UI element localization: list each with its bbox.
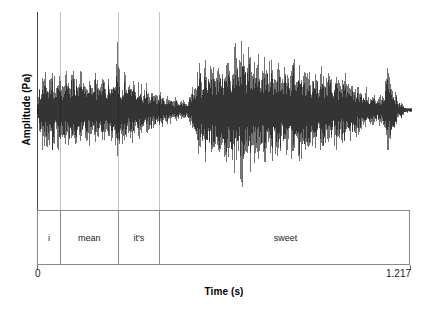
waveform-figure: Amplitude (Pa) i mean it's sweet 0 1.217… [0,0,448,309]
x-axis-tick-label-start: 0 [35,268,41,279]
x-axis-tick-label-end: 1.217 [386,268,411,279]
waveform-plot [37,12,412,210]
tier-segment-its[interactable]: it's [119,211,161,264]
tier-segment-i[interactable]: i [38,211,61,264]
annotation-tier: i mean it's sweet [37,210,410,265]
y-axis-label: Amplitude (Pa) [21,40,32,180]
x-axis-label: Time (s) [0,286,448,297]
tier-segment-mean[interactable]: mean [61,211,119,264]
waveform-svg [37,12,412,210]
tier-segment-sweet[interactable]: sweet [160,211,411,264]
waveform-trace [37,41,412,188]
